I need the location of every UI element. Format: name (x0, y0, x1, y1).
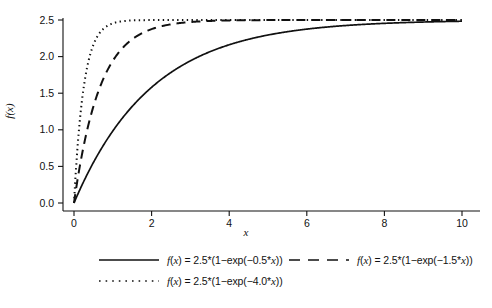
x-axis-label: x (0, 226, 492, 238)
legend-entry-dashed: f(x) = 2.5*(1−exp(−1.5*x)) (288, 250, 473, 270)
legend-label-dotted: f(x) = 2.5*(1−exp(−4.0*x)) (167, 275, 283, 287)
series-line-dotted (74, 20, 462, 203)
legend-entry-solid: f(x) = 2.5*(1−exp(−0.5*x)) (98, 250, 283, 270)
y-tick-label: 0.0 (39, 197, 54, 209)
series-line-dashed (74, 20, 462, 203)
y-axis-label: f(x) (3, 88, 15, 134)
solid-line-swatch (98, 254, 160, 266)
figure-container: 0.00.51.01.52.02.50246810 x f(x) f(x) = … (0, 0, 492, 308)
dashed-line-swatch (288, 254, 350, 266)
legend-row: f(x) = 2.5*(1−exp(−0.5*x)) f(x) = 2.5*(1… (0, 250, 492, 270)
legend-entry-dotted: f(x) = 2.5*(1−exp(−4.0*x)) (98, 271, 283, 291)
y-tick-label: 2.0 (39, 50, 54, 62)
chart-legend: f(x) = 2.5*(1−exp(−0.5*x)) f(x) = 2.5*(1… (0, 248, 492, 308)
legend-label-solid: f(x) = 2.5*(1−exp(−0.5*x)) (167, 254, 283, 266)
legend-row: f(x) = 2.5*(1−exp(−4.0*x)) (0, 271, 492, 291)
plot-area: 0.00.51.01.52.02.50246810 x f(x) (0, 0, 492, 245)
y-tick-label: 2.5 (39, 14, 54, 26)
y-tick-label: 1.5 (39, 87, 54, 99)
y-tick-label: 1.0 (39, 123, 54, 135)
legend-label-dashed: f(x) = 2.5*(1−exp(−1.5*x)) (357, 254, 473, 266)
series-line-solid (74, 21, 462, 203)
chart-svg: 0.00.51.01.52.02.50246810 (0, 0, 492, 245)
dotted-line-swatch (98, 275, 160, 287)
y-tick-label: 0.5 (39, 160, 54, 172)
